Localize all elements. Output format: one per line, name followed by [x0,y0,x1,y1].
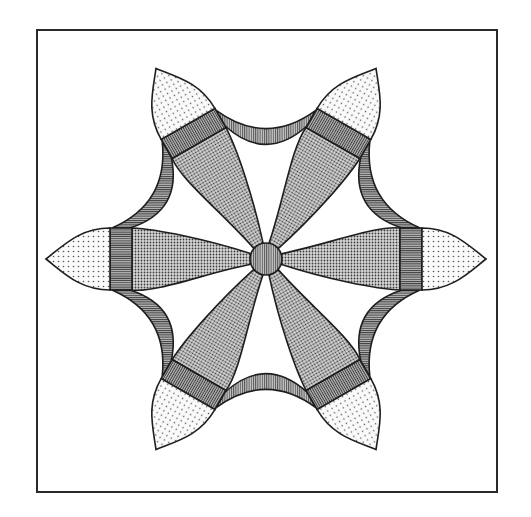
petal-band [400,228,422,290]
petal [280,228,486,290]
petal-band [110,228,132,290]
connector-arc [112,290,173,377]
connector-arc [359,141,420,228]
quilt-block-diagram [0,0,531,517]
petal [46,228,252,290]
connector-arc [359,290,420,377]
petal-tip [46,228,110,290]
center-circle [250,243,282,275]
petal-tip [422,228,486,290]
petal-body [280,228,400,290]
connector-arc [112,141,173,228]
petal-body [132,228,252,290]
